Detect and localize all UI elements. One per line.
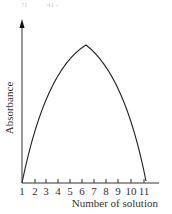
x-tick-label: 3 [43,185,49,197]
chart: 1234567891011 Absorbance Number of solut… [0,0,172,214]
x-tick-label: 5 [67,185,73,197]
y-axis-arrow-icon [20,19,25,28]
x-tick-label: 7 [91,185,97,197]
x-axis-label: Number of solution [72,197,159,209]
x-tick-label: 9 [115,185,121,197]
x-tick-label: 4 [55,185,61,197]
absorbance-curve [22,45,146,183]
x-tick-label: 11 [139,185,150,197]
x-tick-labels: 1234567891011 [19,185,149,197]
y-axis-label: Absorbance [3,82,15,135]
x-tick-label: 8 [103,185,109,197]
x-tick-label: 2 [32,185,38,197]
x-ticks [35,179,144,183]
x-tick-label: 6 [79,185,85,197]
x-tick-label: 1 [19,185,25,197]
x-tick-label: 10 [126,185,138,197]
